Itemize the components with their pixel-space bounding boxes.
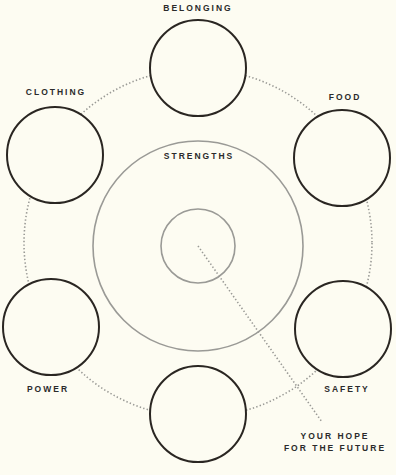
belonging-label: BELONGING xyxy=(163,2,232,14)
clothing-circle[interactable] xyxy=(7,107,103,203)
diagram-canvas xyxy=(0,0,396,475)
hope-label-line2: FOR THE FUTURE xyxy=(284,442,386,454)
food-circle[interactable] xyxy=(294,110,390,206)
clothing-label: CLOTHING xyxy=(26,86,86,98)
hope-label-line1: YOUR HOPE xyxy=(300,430,369,442)
safety-label: SAFETY xyxy=(324,383,370,395)
strengths-label: STRENGTHS xyxy=(164,150,234,162)
power-circle[interactable] xyxy=(3,279,99,375)
food-label: FOOD xyxy=(329,91,362,103)
belonging-circle[interactable] xyxy=(150,20,246,116)
safety-circle[interactable] xyxy=(295,281,391,377)
power-label: POWER xyxy=(27,383,69,395)
bottom-circle[interactable] xyxy=(150,366,246,462)
